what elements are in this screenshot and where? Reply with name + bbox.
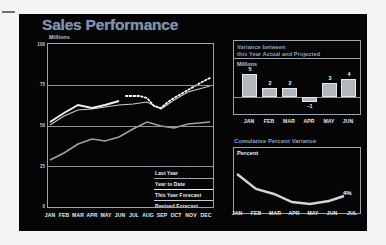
x-tick: DEC [200,212,211,218]
screenshot-root: Sales Performance Millions [0,0,386,245]
main-line-chart: Millions [25,34,218,227]
x-tick: OCT [170,212,181,218]
bar-jun [341,79,356,97]
legend-item-this-year-forecast: This Year Forecast [154,192,214,203]
bar-value-jan: 5 [249,66,252,72]
x-tick: MAY [323,118,334,124]
page-title: Sales Performance [42,16,178,34]
cumulative-end-label: 4% [343,190,352,196]
legend-label: Last Year [155,170,178,176]
gridline-75 [48,85,213,86]
variance-panel-header: Variance between this Year Actual and Pr… [233,40,361,59]
x-tick: AUG [142,212,154,218]
crop-mark [2,11,15,13]
bar-value-mar: 2 [289,80,292,86]
bar-mar [282,88,297,97]
cumulative-plot-area: Percent 4% [233,147,361,214]
legend-item-year-to-date: Year to Date [154,181,214,192]
x-tick: APR [288,210,299,216]
x-tick: SEP [157,212,168,218]
bar-feb [262,88,277,97]
legend-label: This Year Forecast [155,192,201,198]
cumulative-units-label: Percent [237,150,258,156]
bar-may [322,83,337,97]
x-tick: JUN [327,210,338,216]
variance-x-axis: JAN FEB MAR APR MAY JUN [233,118,361,126]
bar-apr [302,97,317,102]
legend-label: Year to Date [155,181,185,187]
variance-units-label: Millions [237,61,257,67]
y-tick: 25 [40,164,45,169]
bar-value-jun: 4 [348,71,351,77]
x-tick: FEB [251,210,262,216]
bar-jan [242,74,257,97]
series-cumulative-percent [237,174,344,204]
x-tick: APR [86,212,97,218]
variance-title-line1: Variance between [237,44,286,50]
x-tick: JAN [45,212,56,218]
bar-value-may: 3 [329,75,332,81]
variance-title-line2: this Year Actual and Projected [237,51,320,57]
right-column-x-axis: JAN FEB MAR APR MAY JUN JUL [233,210,363,218]
cumulative-panel-title: Cumulative Percent Variance [234,138,316,144]
y-tick: 100 [37,42,45,47]
gridline-25 [48,166,213,167]
bar-value-feb: 2 [269,80,272,86]
legend-item-last-year: Last Year [154,170,214,181]
x-tick: FEB [264,118,275,124]
x-tick: MAR [72,212,84,218]
x-tick: JUN [343,118,354,124]
x-tick: APR [303,118,314,124]
gridline-50 [48,126,213,127]
legend-label: Revised Forecast [155,203,198,208]
legend-swatch-this-year-forecast [154,200,213,201]
slide-canvas: Sales Performance Millions [19,14,367,231]
variance-bar-panel: Variance between this Year Actual and Pr… [233,40,361,133]
y-tick: 75 [40,82,45,87]
x-tick: MAY [307,210,318,216]
main-chart-x-axis: JAN FEB MAR APR MAY JUN JUL AUG SEP OCT … [47,212,214,220]
series-last-year [50,122,210,160]
x-tick: JUN [115,212,126,218]
x-tick: MAR [283,118,295,124]
y-tick: 0 [42,204,45,209]
main-chart-units-label: Millions [49,34,70,40]
cumulative-series [234,148,360,213]
main-chart-plot-area: Last Year Year to Date This Year Forecas… [47,43,214,208]
x-tick: JUL [347,210,357,216]
x-tick: MAR [269,210,281,216]
main-chart-legend: Last Year Year to Date This Year Forecas… [154,170,214,208]
legend-swatch-year-to-date [154,189,213,190]
variance-plot-area: Millions 5 2 2 -1 3 4 [233,58,361,115]
x-tick: JAN [244,118,255,124]
x-tick: NOV [185,212,196,218]
x-tick: FEB [59,212,70,218]
bar-value-apr: -1 [308,103,313,109]
x-tick: MAY [100,212,111,218]
variance-zero-line [234,97,360,98]
x-tick: JUL [129,212,139,218]
x-tick: JAN [232,210,243,216]
y-tick: 50 [40,123,45,128]
legend-swatch-last-year [154,178,213,179]
legend-item-revised-forecast: Revised Forecast [154,203,214,208]
